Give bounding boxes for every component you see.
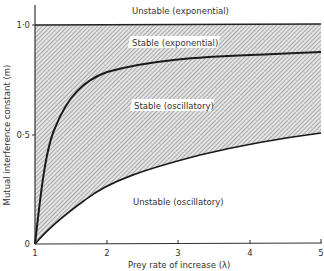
x-axis-title: Prey rate of increase (λ) [128, 260, 230, 270]
stable-region-hatch [35, 24, 321, 244]
y-tick-0: 0 [25, 239, 30, 249]
x-tick-5: 5 [318, 248, 323, 258]
x-tick-4: 4 [247, 248, 252, 258]
x-tick-3: 3 [175, 248, 180, 258]
y-tick-1-0: 1·0 [16, 20, 30, 30]
y-tick-0-5: 0·5 [16, 130, 30, 140]
region-label-unstable-oscillatory: Unstable (oscillatory) [133, 197, 224, 207]
region-label-stable-oscillatory: Stable (oscillatory) [134, 101, 214, 111]
stability-chart: Unstable (exponential) Stable (exponenti… [0, 0, 324, 271]
region-label-stable-exponential: Stable (exponential) [132, 38, 218, 48]
x-tick-2: 2 [104, 248, 109, 258]
x-tick-1: 1 [32, 248, 37, 258]
upper-boundary-line [35, 24, 321, 25]
region-label-unstable-exponential: Unstable (exponential) [132, 6, 229, 16]
y-axis-title: Mutual interference constant (m) [2, 65, 12, 206]
